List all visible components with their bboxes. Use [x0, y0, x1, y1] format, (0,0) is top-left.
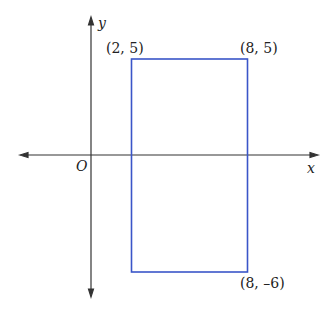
y-axis-label: y	[98, 16, 106, 30]
origin-label: O	[76, 159, 87, 173]
y-axis-up-arrow-icon	[89, 17, 94, 25]
x-axis-label: x	[307, 161, 315, 175]
x-axis	[20, 153, 318, 158]
vertex-label-top-right: (8, 5)	[240, 41, 278, 55]
x-axis-right-arrow-icon	[310, 153, 318, 158]
y-axis-down-arrow-icon	[89, 289, 94, 297]
rectangle-shape	[132, 59, 248, 272]
y-axis	[89, 17, 94, 297]
vertex-label-bottom-right: (8, –6)	[240, 276, 285, 290]
coordinate-plane	[0, 0, 327, 313]
vertex-label-top-left: (2, 5)	[106, 41, 144, 55]
x-axis-left-arrow-icon	[20, 153, 28, 158]
